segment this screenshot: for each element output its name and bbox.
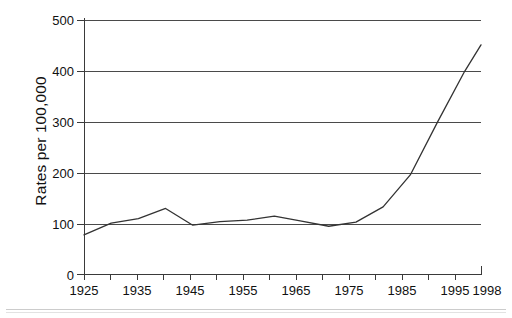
x-tick-label-1975: 1975 (335, 284, 364, 297)
chart-figure: Rates per 100,000 500 400 300 200 100 0 … (0, 0, 512, 318)
page-separator-rule-secondary (6, 312, 506, 313)
y-tick-label-500: 500 (52, 14, 74, 27)
x-tick-label-1985: 1985 (388, 284, 417, 297)
x-tick-label-1945: 1945 (176, 284, 205, 297)
y-tick-label-300: 300 (52, 116, 74, 129)
x-tick-label-1995: 1995 (441, 284, 470, 297)
y-tick-mark-300 (77, 122, 84, 123)
y-axis-tick-labels: 500 400 300 200 100 0 (40, 0, 74, 318)
page-separator-rule (6, 309, 506, 310)
y-tick-mark-200 (77, 173, 84, 174)
y-tick-label-400: 400 (52, 65, 74, 78)
y-tick-label-100: 100 (52, 218, 74, 231)
x-tick-label-1955: 1955 (229, 284, 258, 297)
y-tick-mark-400 (77, 71, 84, 72)
series-line-rates (84, 45, 481, 235)
y-tick-mark-100 (77, 224, 84, 225)
series-line-chart (84, 20, 482, 275)
x-tick-label-1935: 1935 (123, 284, 152, 297)
y-tick-mark-0 (77, 274, 84, 275)
y-tick-mark-500 (77, 20, 84, 21)
y-tick-label-0: 0 (67, 269, 74, 282)
x-tick-label-1998: 1998 (473, 284, 502, 297)
x-tick-label-1965: 1965 (282, 284, 311, 297)
y-tick-label-200: 200 (52, 167, 74, 180)
x-tick-label-1925: 1925 (70, 284, 99, 297)
